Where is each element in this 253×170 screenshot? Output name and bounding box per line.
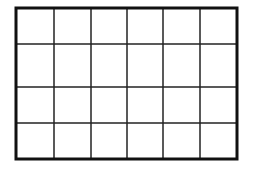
grid-cell — [127, 44, 163, 87]
grid-cell — [127, 8, 163, 44]
grid-cell — [16, 44, 54, 87]
grid-cell — [200, 8, 237, 44]
grid-cell — [163, 87, 200, 123]
grid-cell — [163, 123, 200, 159]
empty-grid-diagram — [0, 0, 253, 170]
grid-cell — [200, 123, 237, 159]
grid-cell — [200, 87, 237, 123]
grid-cell — [54, 44, 91, 87]
grid-cell — [163, 44, 200, 87]
grid-cell — [200, 44, 237, 87]
grid-cell — [16, 87, 54, 123]
grid-cell — [127, 87, 163, 123]
grid-cell — [91, 8, 127, 44]
grid-cell — [16, 123, 54, 159]
grid-cell — [163, 8, 200, 44]
grid-cell — [127, 123, 163, 159]
grid-cell — [54, 8, 91, 44]
grid-cell — [16, 8, 54, 44]
grid-diagram-canvas — [0, 0, 253, 170]
grid-cell — [54, 87, 91, 123]
grid-cell — [91, 44, 127, 87]
grid-cell — [91, 87, 127, 123]
grid-cell — [54, 123, 91, 159]
grid-cell — [91, 123, 127, 159]
